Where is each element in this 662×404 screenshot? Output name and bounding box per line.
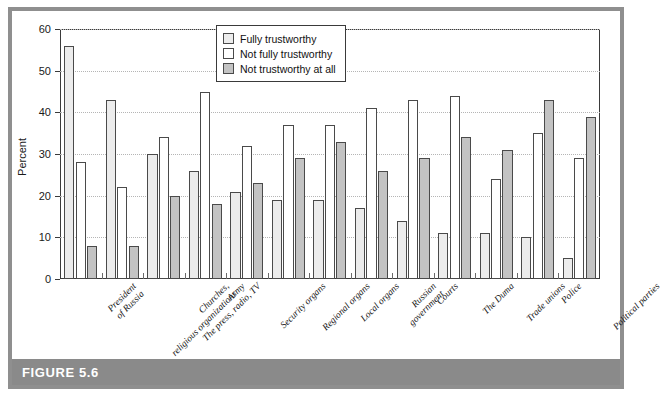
bar [87,246,97,279]
legend-swatch [223,63,234,74]
bar [242,146,252,279]
x-axis-label: Courts [435,281,461,307]
bar [76,162,86,279]
y-axis-tick [55,279,60,280]
bar [491,179,501,279]
figure-frame: 0102030405060 Percent Presidentof Russia… [8,7,624,389]
bar-group [392,29,434,279]
y-axis-tick-label: 10 [39,231,51,243]
bar [544,100,554,279]
bar [533,133,543,279]
y-axis-tick-label: 30 [39,148,51,160]
x-axis-label: Russiangovernment [399,281,446,328]
bar [129,246,139,279]
bar [563,258,573,279]
bar [313,200,323,279]
y-axis-tick [55,29,60,30]
bar [336,142,346,280]
y-axis-tick-label: 50 [39,65,51,77]
bar [159,137,169,279]
bar [189,171,199,279]
bar [378,171,388,279]
legend-label: Not trustworthy at all [240,63,336,75]
legend-swatch [223,48,234,59]
bar [586,117,596,280]
bar [419,158,429,279]
bar [117,187,127,279]
bar [106,100,116,279]
bar [230,192,240,280]
bar [366,108,376,279]
legend-item: Fully trustworthy [223,31,336,46]
chart-legend: Fully trustworthyNot fully trustworthyNo… [216,25,346,82]
legend-label: Fully trustworthy [240,33,316,45]
y-axis-tick [55,154,60,155]
legend-swatch [223,33,234,44]
y-axis-tick-label: 20 [39,190,51,202]
bar [64,46,74,279]
bar-group [60,29,102,279]
bar [212,204,222,279]
bar [461,137,471,279]
bar [253,183,263,279]
y-axis-tick [55,196,60,197]
bar [438,233,448,279]
bar [355,208,365,279]
y-axis-title: Percent [16,138,28,176]
bar-group [517,29,559,279]
legend-label: Not fully trustworthy [240,48,332,60]
legend-item: Not trustworthy at all [223,61,336,76]
legend-item: Not fully trustworthy [223,46,336,61]
y-axis-tick [55,71,60,72]
bar-group [351,29,393,279]
y-axis-tick-label: 40 [39,106,51,118]
x-axis-label: Presidentof Russia [105,281,146,322]
bar [574,158,584,279]
bar [295,158,305,279]
x-axis-label: The Duma [480,281,516,317]
x-axis-label: Political parties [611,281,662,332]
bar-group [102,29,144,279]
bar [147,154,157,279]
bar [272,200,282,279]
figure-canvas: 0102030405060 Percent Presidentof Russia… [12,11,620,351]
bar [325,125,335,279]
bar [200,92,210,280]
bar [170,196,180,279]
bar-group [475,29,517,279]
bar [283,125,293,279]
bar [397,221,407,279]
figure-caption-bar: FIGURE 5.6 [12,359,620,385]
y-axis-tick [55,112,60,113]
bar [450,96,460,279]
bar-group [558,29,600,279]
y-axis-tick [55,237,60,238]
y-axis-tick-label: 60 [39,23,51,35]
bar [521,237,531,279]
bar-group [434,29,476,279]
figure-caption-text: FIGURE 5.6 [12,365,99,380]
y-axis-tick-label: 0 [45,273,51,285]
bar-group [143,29,185,279]
bar [502,150,512,279]
bar [480,233,490,279]
x-axis-label: Regional organs [321,281,373,333]
x-axis-label: Trade unions [525,281,568,324]
bar [408,100,418,279]
